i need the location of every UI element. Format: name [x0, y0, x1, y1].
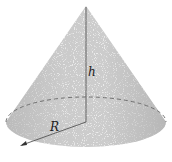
- height-label: h: [88, 65, 96, 79]
- cone-diagram: h R: [0, 0, 172, 162]
- radius-arrowhead-icon: [20, 141, 27, 146]
- radius-label: R: [49, 120, 59, 134]
